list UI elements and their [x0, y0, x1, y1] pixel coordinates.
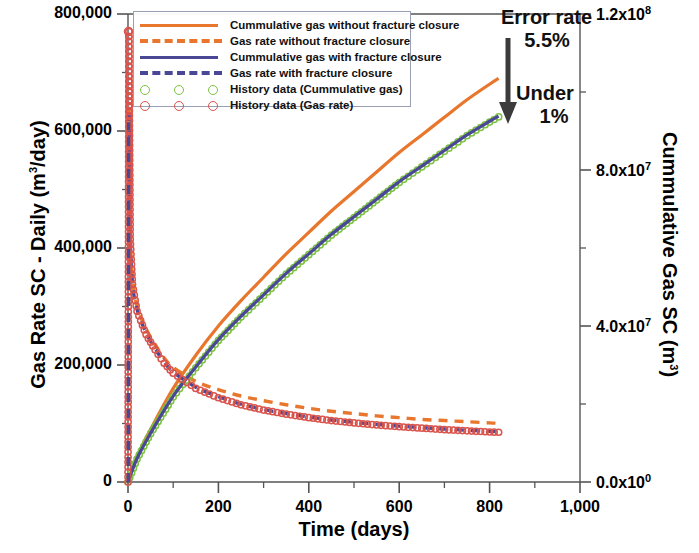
annotation-under: Under 1%	[516, 82, 626, 128]
y-axis-right-tick-label: 4.0x107	[596, 316, 651, 336]
y-axis-left-tick-label: 200,000	[0, 355, 112, 373]
legend-box: Cummulative gas without fracture closure…	[133, 11, 411, 107]
x-axis-tick-label: 600	[359, 498, 439, 516]
y-axis-left-tick-label: 400,000	[0, 238, 112, 256]
x-axis-tick-label: 200	[178, 498, 258, 516]
legend-item: History data (Cummulative gas)	[134, 81, 410, 97]
y-axis-left-tick-label: 600,000	[0, 121, 112, 139]
legend-marker-icon	[140, 101, 150, 111]
legend-line-swatch	[140, 56, 218, 59]
legend-line-swatch	[140, 39, 222, 43]
legend-item: Gas rate with fracture closure	[134, 65, 410, 81]
legend-item-label: History data (Cummulative gas)	[230, 81, 403, 97]
legend-item-label: Gas rate without fracture closure	[230, 33, 410, 49]
x-axis-tick-label: 0	[88, 498, 168, 516]
legend-items: Cummulative gas without fracture closure…	[134, 17, 410, 113]
legend-marker-icon	[174, 85, 184, 95]
x-axis-tick-label: 800	[450, 498, 530, 516]
annotation-error-rate-line1: Error rate	[501, 6, 621, 29]
legend-marker-icon	[208, 101, 218, 111]
annotation-under-line1: Under	[516, 82, 626, 105]
legend-marker-icon	[140, 85, 150, 95]
legend-item-label: Cummulative gas with fracture closure	[230, 49, 442, 65]
legend-item: Gas rate without fracture closure	[134, 33, 410, 49]
y-axis-left-tick-label: 800,000	[0, 4, 112, 22]
y-axis-right-tick-label: 8.0x107	[596, 160, 651, 180]
legend-item: Cummulative gas without fracture closure	[134, 17, 410, 33]
legend-item: History data (Gas rate)	[134, 97, 410, 113]
legend-item-label: Cummulative gas without fracture closure	[230, 17, 459, 33]
annotation-error-rate: Error rate 5.5%	[501, 6, 621, 52]
legend-item-label: Gas rate with fracture closure	[230, 65, 392, 81]
x-axis-tick-label: 400	[269, 498, 349, 516]
legend-item: Cummulative gas with fracture closure	[134, 49, 410, 65]
legend-item-label: History data (Gas rate)	[230, 97, 353, 113]
y-axis-left-tick-label: 0	[0, 472, 112, 490]
legend-marker-swatch	[140, 99, 220, 111]
x-axis-tick-label: 1,000	[540, 498, 620, 516]
legend-line-swatch	[140, 24, 218, 27]
chart-figure: { "chart_data": { "type": "line", "title…	[0, 0, 699, 553]
annotation-error-rate-value: 5.5%	[501, 29, 593, 52]
legend-marker-icon	[208, 85, 218, 95]
y-axis-right-tick-label: 0.0x100	[596, 472, 651, 492]
legend-marker-icon	[174, 101, 184, 111]
legend-line-swatch	[140, 71, 222, 75]
legend-marker-swatch	[140, 83, 220, 95]
annotation-under-value: 1%	[516, 105, 592, 128]
